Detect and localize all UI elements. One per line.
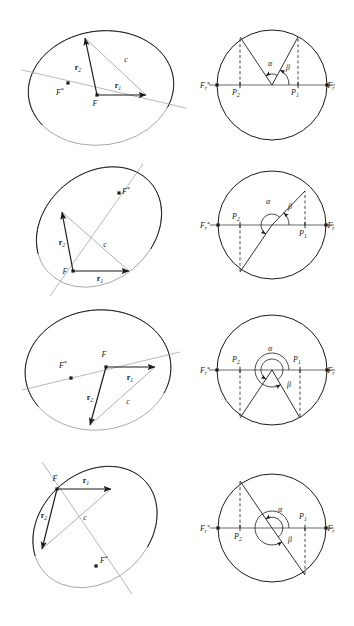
label-r1-sub: 1 <box>130 377 133 383</box>
focus-Fstar-dot <box>69 376 72 379</box>
ellipse-highlight-arc <box>25 310 171 407</box>
focus-Frstar-dot <box>216 526 219 529</box>
label-c: c <box>103 240 107 249</box>
ray-to-p2-point <box>240 370 272 418</box>
label-p1: P1 <box>298 512 307 522</box>
label-p1: P1 <box>290 88 299 98</box>
ellipse-highlight-arc <box>36 167 161 254</box>
ellipse-panel-1: r1r2cFF* <box>21 21 186 154</box>
label-fr: Fr <box>326 524 335 534</box>
label-Fstar-sup: * <box>64 359 67 366</box>
label-p2-sub: 2 <box>237 359 240 365</box>
label-r1-sub: 1 <box>100 278 103 284</box>
label-frstar: Fr* <box>199 365 210 376</box>
label-beta: β <box>287 535 292 544</box>
circle-panel-2: αβP1P2FrFr* <box>199 171 335 279</box>
ellipse-outline <box>19 303 177 438</box>
label-frstar: Fr* <box>199 523 210 534</box>
circle-panel-4: αβP1P2FrFr* <box>199 474 335 582</box>
ray-to-p1-point <box>272 37 298 85</box>
label-r1: r1 <box>97 274 104 284</box>
label-Fstar-sup: * <box>61 86 64 93</box>
figure-canvas: r1r2cFF*αβP1P2FrFr*r1r2cFF*αβP1P2FrFr*r1… <box>0 0 354 626</box>
label-Fstar: F* <box>99 554 108 565</box>
label-frstar: Fr* <box>199 80 210 91</box>
label-alpha: α <box>278 505 283 514</box>
chord-c-line <box>90 367 155 425</box>
label-Fstar: F* <box>58 359 67 370</box>
label-p2: P2 <box>231 88 240 98</box>
label-c: c <box>124 55 128 64</box>
label-fr: Fr <box>326 366 335 376</box>
label-frstar-sup: * <box>207 365 210 372</box>
label-frstar: Fr* <box>199 220 210 231</box>
label-fr: Fr <box>326 221 335 231</box>
label-p2: P2 <box>231 212 240 222</box>
label-fr-sub: r <box>332 225 335 231</box>
label-p1-sub: 1 <box>298 359 301 365</box>
label-fr: Fr <box>326 81 335 91</box>
label-Fstar: F* <box>121 185 130 196</box>
angle-arc-beta <box>284 213 289 225</box>
circle-panel-1: αβP1P2FrFr* <box>199 30 335 140</box>
focal-axis-line <box>22 70 186 108</box>
label-beta: β <box>287 202 292 211</box>
label-alpha: α <box>268 59 273 68</box>
focus-F-dot <box>71 269 74 272</box>
focus-Fstar-dot <box>66 81 69 84</box>
circle-panel-3: αβP1P2FrFr* <box>199 315 335 425</box>
label-p2-sub: 2 <box>239 536 242 542</box>
label-r2: r2 <box>87 393 94 403</box>
label-F: F <box>52 474 58 483</box>
label-Fstar: F* <box>55 86 64 97</box>
label-p1: P1 <box>298 229 307 239</box>
label-c: c <box>126 397 130 406</box>
focus-Fstar-dot <box>94 564 97 567</box>
label-beta: β <box>285 63 290 72</box>
label-fr-sub: r <box>332 370 335 376</box>
ray-to-p2-point <box>240 481 272 528</box>
label-Fstar-sup: * <box>127 185 130 192</box>
vector-r2 <box>90 367 106 425</box>
label-c: c <box>83 513 87 522</box>
ellipse-panel-4: r1r2cFF* <box>8 441 181 612</box>
label-p2-sub: 2 <box>237 92 240 98</box>
label-p1: P1 <box>292 355 301 365</box>
angle-arc-alpha <box>261 214 280 234</box>
angle-arc-beta <box>280 70 289 85</box>
focus-Frstar-dot <box>215 368 218 371</box>
label-r2-sub: 2 <box>44 515 47 521</box>
label-r2: r2 <box>41 511 48 521</box>
focus-Fstar-dot <box>117 191 120 194</box>
label-frstar-sup: * <box>207 220 210 227</box>
focus-F-dot <box>95 93 98 96</box>
chord-c-line <box>62 212 129 271</box>
label-p2: P2 <box>231 355 240 365</box>
label-frstar-sup: * <box>207 80 210 87</box>
ellipse-panel-3: r1r2cFF* <box>19 303 180 438</box>
label-beta: β <box>286 380 291 389</box>
focus-F-dot <box>104 365 107 368</box>
ray-to-p1-point <box>272 370 300 418</box>
label-fr-sub: r <box>332 85 335 91</box>
label-frstar-sup: * <box>207 523 210 530</box>
label-alpha: α <box>268 344 273 353</box>
label-p1-sub: 1 <box>296 92 299 98</box>
label-F: F <box>92 99 98 108</box>
focus-Frstar-dot <box>215 83 218 86</box>
label-r1: r1 <box>115 81 122 91</box>
ellipse-panel-2: r1r2cFF* <box>12 142 186 312</box>
label-r1: r1 <box>83 476 90 486</box>
label-r2: r2 <box>75 63 82 73</box>
label-r2: r2 <box>59 238 66 248</box>
label-p1-sub: 1 <box>304 516 307 522</box>
vector-r2 <box>85 38 97 95</box>
label-r2-sub: 2 <box>78 67 81 73</box>
angle-arc-alpha <box>261 359 283 380</box>
label-F: F <box>101 350 107 359</box>
focus-F-dot <box>55 487 58 490</box>
ellipse-highlight-arc <box>28 31 173 125</box>
focus-Frstar-dot <box>216 223 219 226</box>
label-p2-sub: 2 <box>237 216 240 222</box>
label-F: F <box>62 267 68 276</box>
